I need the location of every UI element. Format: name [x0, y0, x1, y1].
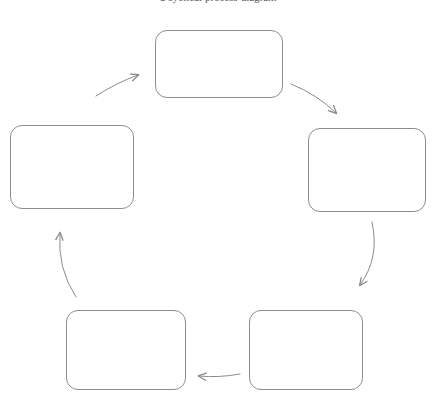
- arrow-bottom-right-to-bottom-left: [199, 374, 240, 377]
- arrow-right-to-bottom-right: [360, 222, 374, 285]
- node-left-label: [11, 126, 133, 208]
- node-left[interactable]: [10, 125, 134, 209]
- node-bottom-right-label: [250, 311, 362, 389]
- node-bottom-right[interactable]: [249, 310, 363, 390]
- node-right[interactable]: [308, 128, 426, 212]
- node-right-label: [309, 129, 425, 211]
- figure-caption-clipped: a cyclical process diagram: [0, 0, 437, 6]
- node-top[interactable]: [155, 30, 283, 98]
- node-bottom-left-label: [67, 311, 185, 389]
- cycle-diagram: a cyclical process diagram: [0, 0, 437, 405]
- arrow-left-to-top: [96, 75, 138, 96]
- arrow-bottom-left-to-left: [60, 233, 76, 297]
- arrow-top-to-right: [291, 84, 336, 113]
- figure-caption-text: a cyclical process diagram: [0, 0, 437, 3]
- node-bottom-left[interactable]: [66, 310, 186, 390]
- node-top-label: [156, 31, 282, 97]
